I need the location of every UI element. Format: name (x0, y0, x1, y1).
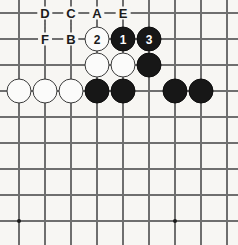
stone-white-c3r2 (85, 53, 110, 78)
stone-black-c5r2 (137, 53, 162, 78)
grid-line-horizontal (0, 142, 238, 144)
stone-move-number: 1 (120, 33, 127, 45)
grid-line-vertical (200, 0, 202, 245)
point-label-f: F (38, 33, 52, 46)
stone-black-c7r3 (189, 79, 214, 104)
stone-white-c2r3 (59, 79, 84, 104)
grid-line-horizontal (0, 220, 238, 222)
connector-d-to-f (44, 20, 46, 32)
stone-white-move-2: 2 (85, 27, 110, 52)
point-label-b: B (63, 33, 78, 46)
go-board-diagram: 213 DCAEFB (0, 0, 238, 245)
stone-move-number: 3 (146, 33, 153, 45)
point-label-a: A (89, 7, 104, 20)
grid-line-vertical (226, 0, 228, 245)
grid-line-horizontal (0, 194, 238, 196)
stone-white-c4r2 (111, 53, 136, 78)
stone-move-number: 2 (94, 33, 101, 45)
grid-line-vertical (18, 0, 20, 245)
grid-line-horizontal (0, 116, 238, 118)
stone-white-c1r3 (33, 79, 58, 104)
connector-c-to-b (70, 20, 72, 32)
stone-black-move-1: 1 (111, 27, 136, 52)
grid-line-vertical (174, 0, 176, 245)
stone-black-c3r3 (85, 79, 110, 104)
stone-black-move-3: 3 (137, 27, 162, 52)
point-label-c: C (63, 7, 78, 20)
star-point-lower-left (17, 219, 21, 223)
point-label-d: D (37, 7, 52, 20)
grid-line-horizontal (0, 168, 238, 170)
stone-white-c0r3 (7, 79, 32, 104)
point-label-e: E (116, 7, 131, 20)
stone-black-c6r3 (163, 79, 188, 104)
stone-black-c4r3 (111, 79, 136, 104)
star-point-lower-right (173, 219, 177, 223)
